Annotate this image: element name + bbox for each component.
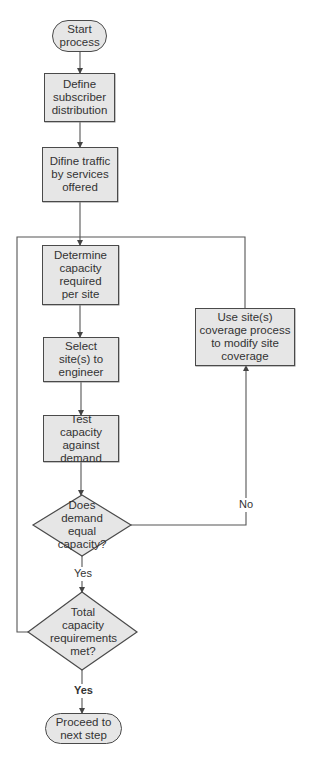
start-terminal: Start process [52, 20, 107, 52]
modify-coverage-label: Use site(s) coverage process to modify s… [198, 311, 292, 363]
edge-label-yes-1: Yes [73, 567, 93, 579]
edge-label-yes-2: Yes [73, 684, 94, 696]
proceed-terminal: Proceed to next step [45, 713, 122, 744]
determine-capacity-label: Determine capacity required per site [53, 249, 109, 301]
edge-label-no: No [238, 498, 254, 510]
decision-total-met: Total capacity requirements met? [45, 612, 121, 652]
decision-total-met-label: Total capacity requirements met? [50, 606, 116, 658]
decision-demand-equal-label: Does demand equal capacity? [47, 499, 117, 551]
define-traffic-label: Difine traffic by services offered [47, 155, 113, 194]
select-sites-box: Select site(s) to engineer [43, 337, 119, 382]
test-capacity-box: Test capacity against demand [43, 415, 119, 462]
connector-no-horizontal [131, 512, 246, 525]
decision-demand-equal: Does demand equal capacity? [40, 505, 124, 545]
start-label: Start process [60, 23, 100, 49]
define-subscriber-box: Define subscriber distribution [44, 73, 115, 122]
test-capacity-label: Test capacity against demand [48, 413, 114, 465]
define-subscriber-label: Define subscriber distribution [48, 78, 112, 117]
define-traffic-box: Difine traffic by services offered [42, 147, 118, 202]
proceed-label: Proceed to next step [52, 716, 116, 742]
select-sites-label: Select site(s) to engineer [48, 340, 114, 379]
modify-coverage-box: Use site(s) coverage process to modify s… [195, 308, 295, 366]
determine-capacity-box: Determine capacity required per site [42, 245, 119, 305]
